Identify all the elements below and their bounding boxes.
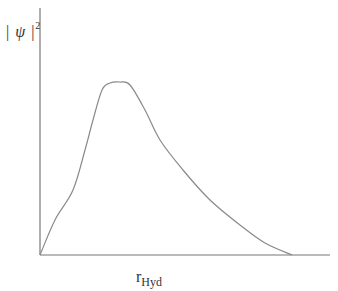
- x-label-subscript: Hyd: [141, 275, 162, 289]
- y-label-psi: ψ: [15, 23, 26, 40]
- y-label-exponent: 2: [35, 20, 41, 31]
- probability-density-curve: [40, 82, 292, 255]
- x-axis-label: rHyd: [136, 268, 162, 290]
- chart-canvas: [0, 0, 338, 291]
- y-label-bar-left: |: [6, 23, 10, 40]
- chart: | ψ |2 rHyd: [0, 0, 338, 291]
- y-axis-label: | ψ |2: [6, 22, 41, 41]
